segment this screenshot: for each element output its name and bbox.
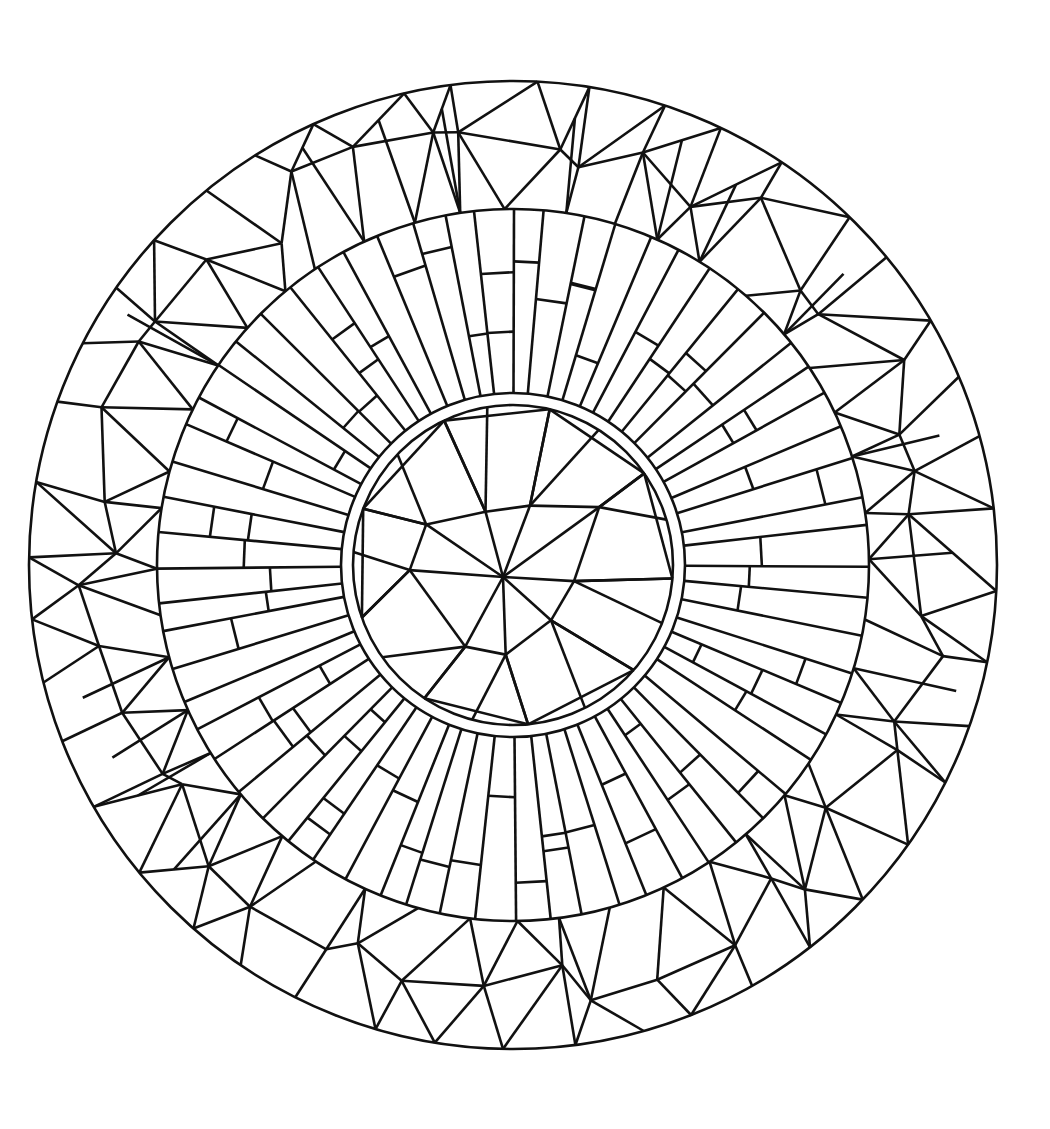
triangulated-core [354,407,673,724]
mandala-artwork [0,0,1050,1129]
radial-stripe-ring [157,209,869,921]
